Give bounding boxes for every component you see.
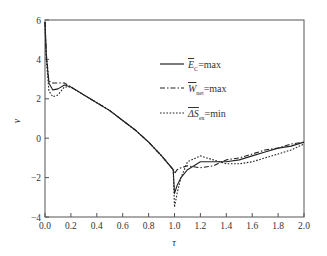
x-tick-label: 0.6 bbox=[117, 221, 129, 231]
x-tick-label: 2.0 bbox=[298, 221, 310, 231]
y-tick-label: −4 bbox=[31, 213, 41, 223]
x-tick-label: 1.8 bbox=[272, 221, 284, 231]
y-axis-label: ν bbox=[11, 118, 22, 123]
legend-label-1: Wnet=max bbox=[188, 83, 227, 96]
series-line-1 bbox=[45, 22, 304, 174]
series-layer bbox=[45, 22, 304, 207]
x-axis: 0.00.20.40.60.81.01.21.41.61.82.0 bbox=[39, 213, 310, 231]
series-line-0 bbox=[45, 22, 304, 193]
y-tick-label: 6 bbox=[36, 16, 41, 26]
y-tick-label: 2 bbox=[36, 94, 41, 104]
x-tick-label: 0.2 bbox=[65, 221, 77, 231]
y-tick-label: 0 bbox=[36, 134, 41, 144]
y-tick-label: 4 bbox=[36, 55, 41, 65]
legend-label-2: ΔSex=min bbox=[187, 108, 226, 121]
legend-label-0: EC=max bbox=[187, 59, 221, 72]
x-tick-label: 0.0 bbox=[39, 221, 51, 231]
x-axis-label: τ bbox=[172, 237, 176, 248]
series-line-2 bbox=[45, 22, 304, 207]
legend: EC=maxWnet=maxΔSex=min bbox=[160, 59, 227, 121]
line-chart: 0.00.20.40.60.81.01.21.41.61.82.0 −4−202… bbox=[0, 0, 327, 256]
x-tick-label: 1.6 bbox=[246, 221, 258, 231]
x-tick-label: 1.4 bbox=[220, 221, 232, 231]
x-tick-label: 1.0 bbox=[169, 221, 181, 231]
y-tick-label: −2 bbox=[31, 173, 41, 183]
x-tick-label: 0.4 bbox=[91, 221, 103, 231]
x-tick-label: 0.8 bbox=[143, 221, 155, 231]
x-tick-label: 1.2 bbox=[194, 221, 206, 231]
